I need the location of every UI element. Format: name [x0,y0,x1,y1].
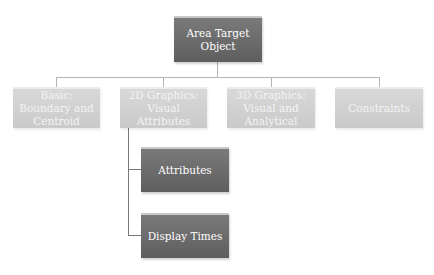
connector-2d [163,77,164,87]
node-attributes: Attributes [141,147,229,192]
node-label: 2D Graphics: Visual Attributes [124,89,203,128]
node-label: Display Times [148,230,223,243]
connector-constraints [379,77,380,87]
node-basic-boundary-centroid: Basic: Boundary and Centroid [13,87,100,128]
connector-basic [56,77,57,87]
node-label: Basic: Boundary and Centroid [17,89,96,128]
node-3d-graphics: 3D Graphics: Visual and Analytical [227,87,315,128]
node-display-times: Display Times [141,213,229,258]
node-2d-graphics: 2D Graphics: Visual Attributes [120,87,207,128]
connector-3d [271,77,272,87]
node-label: 3D Graphics: Visual and Analytical [231,89,311,128]
node-label: Constraints [348,102,410,115]
connector-display-times [128,235,141,236]
node-area-target-object: Area Target Object [174,16,262,62]
connector-root-down [217,62,218,78]
node-constraints: Constraints [335,87,423,128]
connector-attributes [128,169,141,170]
node-label: Attributes [158,164,212,177]
connector-horizontal-level1 [56,77,380,78]
connector-2d-children-vertical [128,128,129,236]
node-label: Area Target Object [178,27,258,53]
